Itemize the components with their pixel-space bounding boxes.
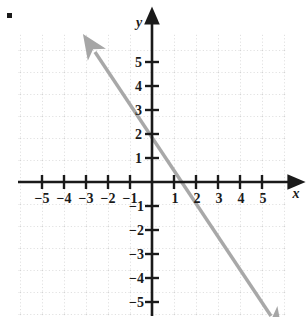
x-tick-label: −5 [35,191,50,206]
x-tick-label: −4 [57,191,72,206]
x-tick-label: 3 [216,191,223,206]
x-tick-label: 1 [172,191,179,206]
y-tick-label: −1 [129,199,144,214]
y-tick-label: −2 [129,223,144,238]
y-tick-label: 5 [135,55,142,70]
coordinate-plane-figure: −5 −4 −3 −2 −1 1 2 3 4 5 5 4 3 2 1 −1 −2… [0,0,306,317]
y-tick-label: 4 [135,79,142,94]
y-tick-label: −3 [129,247,144,262]
y-tick-label: −5 [129,295,144,310]
x-tick-label: 2 [194,191,201,206]
x-tick-label: 4 [238,191,245,206]
y-tick-label: −4 [129,271,144,286]
x-tick-label: −2 [101,191,116,206]
y-axis-label: y [134,15,143,30]
y-tick-label: 2 [135,127,142,142]
x-tick-label: 5 [260,191,267,206]
x-axis-label: x [292,186,300,201]
y-tick-label: 3 [135,103,142,118]
x-tick-label: −3 [79,191,94,206]
graph-canvas: −5 −4 −3 −2 −1 1 2 3 4 5 5 4 3 2 1 −1 −2… [0,0,306,317]
y-tick-label: 1 [135,151,142,166]
